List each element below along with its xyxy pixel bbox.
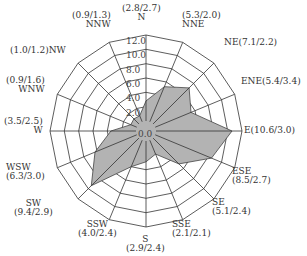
ring-tick-label: 12.0 xyxy=(126,37,146,46)
label-wsw: WSW (6.3/3.0) xyxy=(6,163,45,181)
label-sw: SW (9.4/2.9) xyxy=(14,199,53,217)
label-nw: (1.0/1.2)NW xyxy=(10,46,66,55)
ring-tick-label: 4.0 xyxy=(126,94,140,103)
label-ese: ESE (8.5/2.7) xyxy=(232,167,271,185)
label-s: S (2.9/2.4) xyxy=(126,235,165,253)
label-n: (2.8/2.7) N xyxy=(122,4,161,22)
label-ssw: SSW (4.0/2.4) xyxy=(78,220,117,238)
ring-tick-label: 0.0 xyxy=(138,130,152,139)
label-w: (3.5/2.5) W xyxy=(4,117,43,135)
label-se: SE (5.1/2.4) xyxy=(212,198,251,216)
ring-tick-label: 8.0 xyxy=(126,66,140,75)
ring-tick-label: 2.0 xyxy=(126,109,140,118)
label-ene: ENE(5.4/3.4) xyxy=(241,77,301,86)
label-sse: SSE (2.1/2.1) xyxy=(172,220,211,238)
label-e: E(10.6/3.0) xyxy=(244,126,295,135)
label-ne: NE(7.1/2.2) xyxy=(224,38,277,47)
frequency-area xyxy=(91,87,232,186)
label-nne: (5.3/2.0) NNE xyxy=(182,11,221,29)
label-wnw: (0.9/1.6) WNW xyxy=(6,76,45,94)
label-nnw: (0.9/1.3) NNW xyxy=(72,11,111,29)
ring-tick-label: 10.0 xyxy=(126,51,146,60)
ring-tick-label: 6.0 xyxy=(126,80,140,89)
